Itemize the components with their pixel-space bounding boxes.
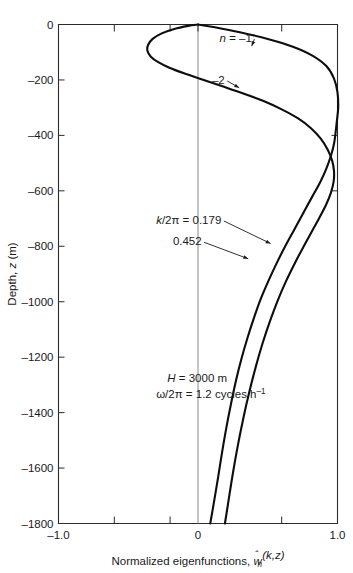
y-tick-label: –600 (28, 185, 54, 197)
annotation-n-minus-1: n = –1 (220, 32, 252, 44)
y-tick-label: 0 (47, 19, 53, 31)
y-axis-title: Depth, z (m) (6, 242, 18, 305)
y-tick-label: –1600 (22, 462, 54, 474)
annotation-arrowhead (243, 255, 248, 259)
eigenfunction-depth-chart: 0–200–400–600–800–1000–1200–1400–1600–18… (0, 0, 353, 573)
annotation-arrowhead (252, 41, 256, 46)
curve-n-minus-1 (198, 25, 338, 524)
y-tick-label: –1000 (22, 296, 54, 308)
x-tick-label: –1.0 (47, 529, 69, 541)
data-series-group (147, 25, 338, 524)
annotation-leader-lines (204, 39, 270, 259)
annotation-arrowhead (265, 240, 270, 244)
x-tick-label: 0 (195, 529, 201, 541)
annotation-arrowhead (234, 84, 239, 88)
curve-n-minus-2 (147, 25, 334, 524)
chart-canvas: 0–200–400–600–800–1000–1200–1400–1600–18… (0, 0, 353, 573)
annotation-k-0179: k/2π = 0.179 (156, 214, 221, 226)
annotation-leader (224, 221, 271, 244)
y-axis-tick-labels: 0–200–400–600–800–1000–1200–1400–1600–18… (22, 19, 54, 530)
annotation-leader (204, 242, 248, 258)
x-tick-label: 1.0 (330, 529, 346, 541)
annotation-n-minus-2: –2 (212, 74, 225, 86)
y-tick-label: –1400 (22, 407, 54, 419)
annotation-parameter-H: H = 3000 m (167, 372, 227, 384)
x-axis-title: Normalized eigenfunctions, wˆn(k,z) (112, 549, 285, 569)
x-axis-tick-labels: –1.001.0 (47, 529, 345, 541)
y-tick-label: –400 (28, 129, 54, 141)
y-tick-label: –1200 (22, 351, 54, 363)
y-tick-label: –800 (28, 240, 54, 252)
y-tick-label: –200 (28, 74, 54, 86)
annotation-labels: n = –1 –2 k/2π = 0.179 0.452 H = 3000 m … (156, 32, 266, 401)
annotation-k-0452: 0.452 (173, 235, 202, 247)
annotation-parameter-omega: ω/2π = 1.2 cycles h–1 (156, 387, 266, 400)
